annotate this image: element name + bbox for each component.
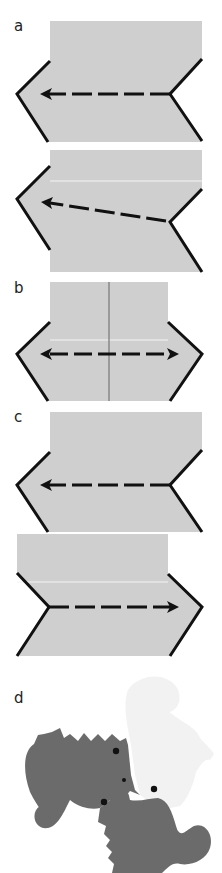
fold-step-c2 bbox=[17, 534, 202, 656]
panel-label-c: c bbox=[14, 408, 22, 426]
fold-step-b bbox=[17, 282, 202, 401]
seahorse-dot bbox=[122, 778, 126, 782]
seahorse-light bbox=[125, 677, 214, 811]
seahorse-eye bbox=[101, 799, 107, 805]
fold-step-c1 bbox=[17, 412, 202, 532]
panel-label-d: d bbox=[14, 689, 24, 707]
fold-step-a2 bbox=[17, 150, 202, 272]
paper-shape bbox=[17, 21, 202, 142]
seahorse-eye bbox=[151, 786, 157, 792]
paper-shape bbox=[17, 534, 202, 656]
panel-label-a: a bbox=[14, 17, 23, 35]
seahorse-tessellation bbox=[25, 677, 214, 873]
seahorse-dark-bottom bbox=[98, 791, 211, 873]
paper-shape bbox=[17, 412, 202, 532]
panel-label-b: b bbox=[14, 279, 24, 297]
diagram-canvas: a b c bbox=[0, 0, 222, 873]
fold-step-a1 bbox=[17, 21, 202, 142]
seahorse-eye bbox=[113, 748, 119, 754]
